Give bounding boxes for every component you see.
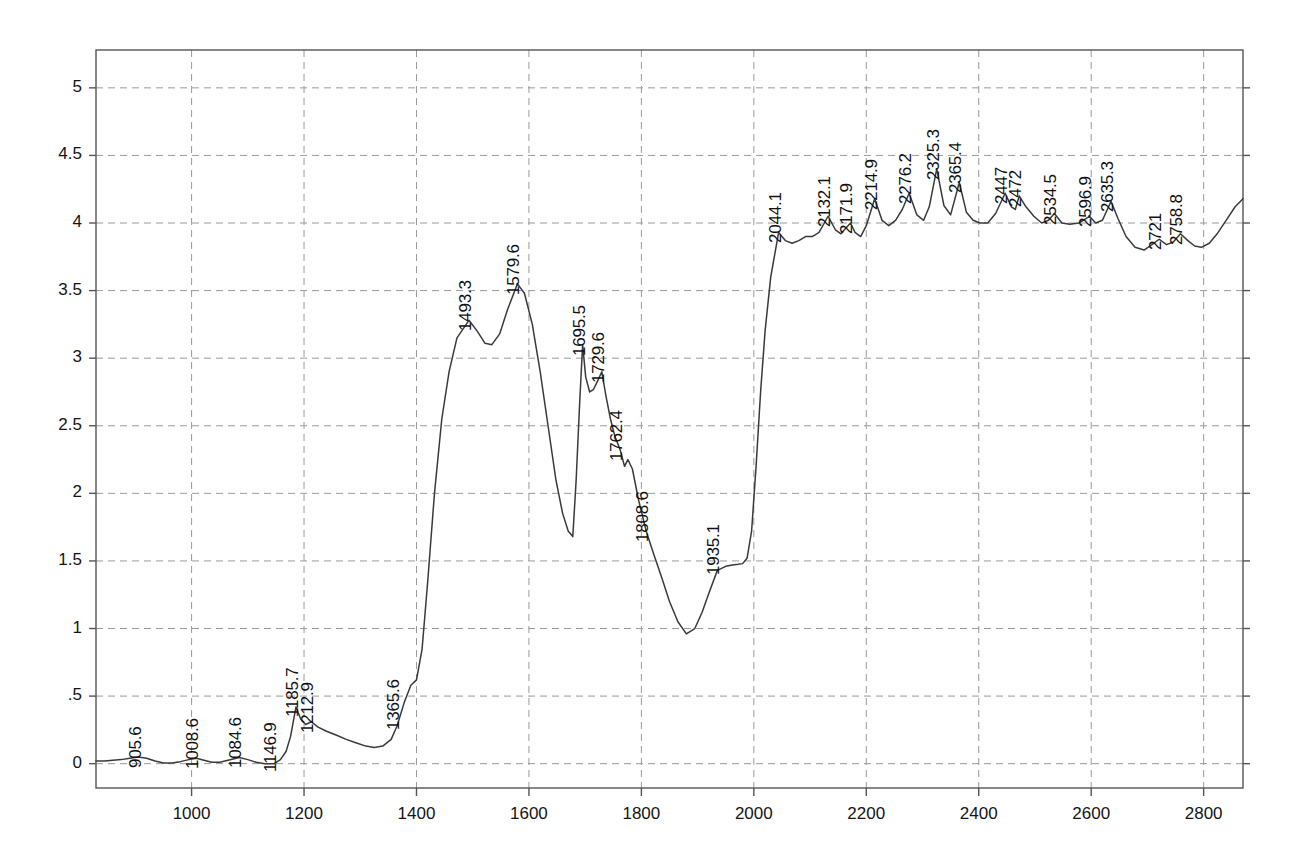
- x-tick-label: 1600: [489, 804, 569, 824]
- peak-label: 1008.6: [183, 718, 203, 769]
- grid-layer: [96, 50, 1243, 788]
- peak-label: 1935.1: [704, 524, 724, 575]
- peak-label: 2635.3: [1098, 162, 1118, 213]
- peak-label: 1493.3: [456, 281, 476, 332]
- y-tick-label: 4.5: [58, 144, 82, 164]
- peak-label: 1695.5: [570, 305, 590, 356]
- spectrum-trace: [96, 169, 1243, 764]
- spectrum-line: [96, 169, 1243, 764]
- y-tick-label: 2: [73, 482, 82, 502]
- peak-label: 2044.1: [766, 193, 786, 244]
- peak-label: 1146.9: [261, 722, 281, 772]
- peak-label: 2214.9: [862, 159, 882, 210]
- peak-label: 2758.8: [1167, 194, 1187, 245]
- peak-label: 1365.6: [384, 679, 404, 730]
- peak-label: 2171.9: [837, 183, 857, 234]
- peak-label: 1212.9: [298, 682, 318, 733]
- x-tick-label: 1200: [264, 804, 344, 824]
- x-tick-label: 2800: [1164, 804, 1244, 824]
- peak-label: 1729.6: [589, 332, 609, 383]
- peak-label: 2365.4: [946, 143, 966, 194]
- peak-label: 1084.6: [226, 717, 246, 768]
- x-tick-label: 2200: [826, 804, 906, 824]
- peak-label: 2132.1: [815, 176, 835, 227]
- peak-label: 1808.6: [633, 491, 653, 542]
- y-tick-label: 0: [73, 753, 82, 773]
- y-tick-label: 1.5: [58, 550, 82, 570]
- x-tick-label: 1400: [376, 804, 456, 824]
- peak-label: 2534.5: [1041, 174, 1061, 225]
- y-tick-label: 3: [73, 347, 82, 367]
- peak-label: 2472: [1006, 170, 1026, 207]
- x-tick-label: 1800: [601, 804, 681, 824]
- peak-label: 2596.9: [1076, 176, 1096, 227]
- y-tick-label: 2.5: [58, 415, 82, 435]
- axes-frame: [96, 50, 1243, 788]
- peak-label: 1762.4: [607, 410, 627, 461]
- x-tick-label: 2400: [939, 804, 1019, 824]
- y-tick-label: 1: [73, 618, 82, 638]
- y-tick-label: 5: [73, 77, 82, 97]
- peak-label: 1579.6: [504, 244, 524, 295]
- x-tick-label: 2000: [714, 804, 794, 824]
- plot-frame: [96, 50, 1243, 788]
- y-tick-label: 3.5: [58, 280, 82, 300]
- peak-label: 2721: [1146, 213, 1166, 250]
- x-tick-label: 2600: [1051, 804, 1131, 824]
- peak-label: 2276.2: [896, 153, 916, 204]
- peak-label: 2325.3: [924, 129, 944, 180]
- x-tick-label: 1000: [152, 804, 232, 824]
- y-tick-label: 4: [73, 212, 82, 232]
- y-tick-label: .5: [68, 685, 82, 705]
- peak-label: 905.6: [126, 726, 146, 768]
- spectrum-chart: 0.511.522.533.544.55 1000120014001600180…: [0, 0, 1307, 850]
